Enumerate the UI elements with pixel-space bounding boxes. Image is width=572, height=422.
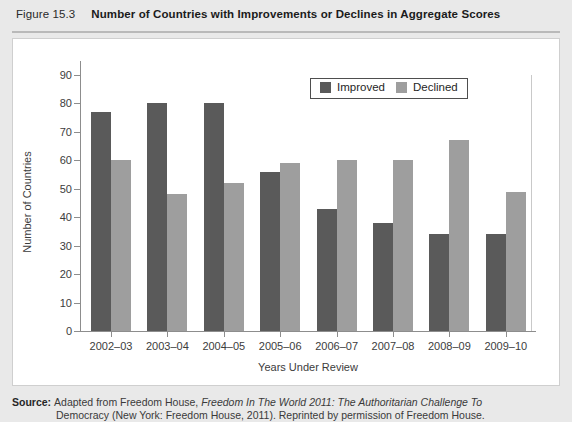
y-axis-tick-label: 60 xyxy=(32,155,72,166)
y-axis-tick-label: 20 xyxy=(32,269,72,280)
plot-right-rule xyxy=(531,75,532,331)
x-axis-tick xyxy=(337,332,338,337)
x-axis-tick-label: 2006–07 xyxy=(307,340,367,352)
y-axis-tick xyxy=(74,274,80,275)
y-axis-title: Number of Countries xyxy=(21,102,33,302)
bar-declined-2005–06 xyxy=(280,163,300,331)
source-publication-title: Freedom In The World 2011: The Authorita… xyxy=(201,396,482,408)
x-axis-title-text: Years Under Review xyxy=(258,361,358,373)
figure-source: Source:Adapted from Freedom House, Freed… xyxy=(12,396,560,421)
y-axis-tick-label: 70 xyxy=(32,127,72,138)
bar-improved-2007–08 xyxy=(373,223,393,331)
header-divider xyxy=(12,31,560,33)
figure-title: Number of Countries with Improvements or… xyxy=(91,8,500,20)
y-axis-tick-label: 80 xyxy=(32,98,72,109)
source-label: Source: xyxy=(12,396,51,408)
y-axis-tick xyxy=(74,132,80,133)
x-axis-tick xyxy=(111,332,112,337)
y-axis-tick-label: 40 xyxy=(32,212,72,223)
bar-declined-2008–09 xyxy=(449,140,469,331)
bar-improved-2008–09 xyxy=(429,234,449,331)
x-axis-tick-label: 2007–08 xyxy=(363,340,423,352)
bar-declined-2002–03 xyxy=(111,160,131,331)
source-text-before-italic: Adapted from Freedom House, xyxy=(54,396,201,408)
legend-item-improved: Improved xyxy=(320,82,385,94)
bar-declined-2009–10 xyxy=(506,192,526,331)
source-line-two: Democracy (New York: Freedom House, 2011… xyxy=(56,409,560,422)
x-axis-tick-label: 2002–03 xyxy=(81,340,141,352)
legend-swatch-declined-icon xyxy=(396,82,407,93)
y-axis-tick xyxy=(74,75,80,76)
figure-header-row: Figure 15.3 Number of Countries with Imp… xyxy=(12,8,560,30)
y-axis-tick xyxy=(74,189,80,190)
x-axis-tick-label: 2008–09 xyxy=(419,340,479,352)
bar-improved-2003–04 xyxy=(147,103,167,331)
y-axis-tick xyxy=(74,331,80,332)
y-axis-tick-label: 30 xyxy=(32,241,72,252)
y-axis-tick xyxy=(74,246,80,247)
x-axis-tick xyxy=(224,332,225,337)
x-axis-tick xyxy=(506,332,507,337)
bar-declined-2006–07 xyxy=(337,160,357,331)
x-axis-line xyxy=(80,331,536,332)
x-axis-tick xyxy=(280,332,281,337)
chart-legend: Improved Declined xyxy=(310,78,468,99)
legend-swatch-improved-icon xyxy=(320,82,331,93)
bar-declined-2007–08 xyxy=(393,160,413,331)
x-axis-tick-label: 2004–05 xyxy=(194,340,254,352)
x-axis-tick-label: 2005–06 xyxy=(250,340,310,352)
bar-improved-2005–06 xyxy=(260,172,280,331)
x-axis-title: Years Under Review xyxy=(80,361,536,373)
y-axis-tick xyxy=(74,303,80,304)
x-axis-tick xyxy=(393,332,394,337)
chart-plot-area: 0102030405060708090 2002–032003–042004–0… xyxy=(13,39,561,387)
bar-improved-2004–05 xyxy=(204,103,224,331)
x-axis-tick-label: 2009–10 xyxy=(476,340,536,352)
y-axis-tick xyxy=(74,103,80,104)
legend-label-improved: Improved xyxy=(337,82,385,94)
y-axis-tick-label: 0 xyxy=(32,326,72,337)
bar-declined-2004–05 xyxy=(224,183,244,331)
figure-number: Figure 15.3 xyxy=(16,8,75,20)
y-axis-tick-label: 50 xyxy=(32,184,72,195)
y-axis-tick xyxy=(74,160,80,161)
bar-improved-2006–07 xyxy=(317,209,337,331)
figure-container: Figure 15.3 Number of Countries with Imp… xyxy=(0,0,572,422)
y-axis-tick-label: 10 xyxy=(32,298,72,309)
x-axis-tick xyxy=(167,332,168,337)
chart-card: 0102030405060708090 2002–032003–042004–0… xyxy=(12,38,560,386)
y-axis-tick xyxy=(74,217,80,218)
bar-improved-2002–03 xyxy=(91,112,111,331)
bar-declined-2003–04 xyxy=(167,194,187,331)
x-axis-tick-label: 2003–04 xyxy=(137,340,197,352)
x-axis-tick xyxy=(449,332,450,337)
legend-item-declined: Declined xyxy=(396,82,458,94)
y-axis-tick-label: 90 xyxy=(32,70,72,81)
y-axis-title-text: Number of Countries xyxy=(21,151,33,253)
legend-label-declined: Declined xyxy=(413,82,458,94)
y-axis-line xyxy=(80,61,81,332)
bar-improved-2009–10 xyxy=(486,234,506,331)
figure-header: Figure 15.3 Number of Countries with Imp… xyxy=(12,8,560,34)
